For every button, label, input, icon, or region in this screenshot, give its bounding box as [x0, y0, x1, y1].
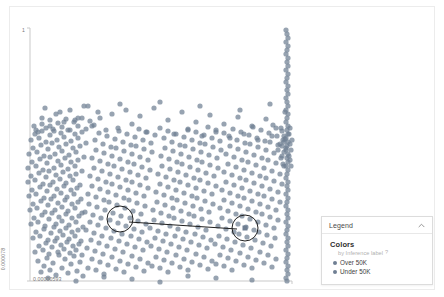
- scatter-point[interactable]: [100, 141, 105, 146]
- scatter-point[interactable]: [140, 137, 145, 142]
- scatter-point[interactable]: [233, 164, 238, 169]
- scatter-point[interactable]: [186, 211, 191, 216]
- scatter-point[interactable]: [183, 172, 188, 177]
- scatter-point[interactable]: [288, 163, 293, 168]
- scatter-point[interactable]: [55, 200, 60, 205]
- scatter-point[interactable]: [61, 134, 66, 139]
- scatter-point[interactable]: [150, 207, 155, 212]
- scatter-point[interactable]: [89, 256, 94, 261]
- scatter-point[interactable]: [54, 137, 59, 142]
- scatter-point[interactable]: [43, 174, 48, 179]
- scatter-point[interactable]: [115, 174, 120, 179]
- scatter-point[interactable]: [235, 146, 240, 151]
- scatter-point[interactable]: [269, 196, 274, 201]
- scatter-point[interactable]: [108, 144, 113, 149]
- scatter-point[interactable]: [133, 264, 138, 269]
- scatter-point[interactable]: [65, 166, 70, 171]
- scatter-point[interactable]: [212, 241, 217, 246]
- scatter-point[interactable]: [278, 155, 283, 160]
- scatter-point[interactable]: [170, 205, 175, 210]
- scatter-point[interactable]: [259, 211, 264, 216]
- scatter-point[interactable]: [137, 256, 142, 261]
- scatter-point[interactable]: [121, 269, 126, 274]
- scatter-point[interactable]: [30, 145, 35, 150]
- scatter-point[interactable]: [31, 215, 36, 220]
- scatter-point[interactable]: [147, 167, 152, 172]
- scatter-point[interactable]: [265, 252, 270, 257]
- scatter-point[interactable]: [177, 179, 182, 184]
- scatter-point[interactable]: [187, 164, 192, 169]
- scatter-point[interactable]: [240, 242, 245, 247]
- scatter-point[interactable]: [207, 112, 212, 117]
- scatter-point[interactable]: [109, 111, 114, 116]
- scatter-point[interactable]: [190, 203, 195, 208]
- scatter-point[interactable]: [65, 270, 70, 275]
- scatter-point[interactable]: [134, 200, 139, 205]
- scatter-point[interactable]: [227, 218, 232, 223]
- scatter-point[interactable]: [249, 265, 254, 270]
- scatter-point[interactable]: [204, 245, 209, 250]
- scatter-point[interactable]: [131, 226, 136, 231]
- scatter-point[interactable]: [183, 229, 188, 234]
- scatter-point[interactable]: [208, 237, 213, 242]
- scatter-point[interactable]: [105, 189, 110, 194]
- scatter-point[interactable]: [235, 193, 240, 198]
- scatter-point[interactable]: [257, 173, 262, 178]
- scatter-point[interactable]: [112, 136, 117, 141]
- scatter-point[interactable]: [205, 266, 210, 271]
- scatter-point[interactable]: [239, 157, 244, 162]
- scatter-point[interactable]: [169, 260, 174, 265]
- scatter-point[interactable]: [113, 192, 118, 197]
- scatter-point[interactable]: [89, 155, 94, 160]
- scatter-point[interactable]: [131, 161, 136, 166]
- scatter-point[interactable]: [59, 124, 64, 129]
- scatter-point[interactable]: [267, 214, 272, 219]
- scatter-point[interactable]: [174, 159, 179, 164]
- scatter-point[interactable]: [73, 278, 78, 283]
- scatter-point[interactable]: [124, 131, 129, 136]
- scatter-point[interactable]: [33, 191, 38, 196]
- scatter-point[interactable]: [237, 175, 242, 180]
- scatter-point[interactable]: [162, 202, 167, 207]
- scatter-point[interactable]: [62, 256, 67, 261]
- scatter-point[interactable]: [281, 149, 286, 154]
- scatter-point[interactable]: [220, 244, 225, 249]
- scatter-point[interactable]: [267, 186, 272, 191]
- scatter-point[interactable]: [179, 109, 184, 114]
- scatter-point[interactable]: [284, 278, 289, 283]
- scatter-point[interactable]: [30, 201, 35, 206]
- scatter-point[interactable]: [121, 195, 126, 200]
- scatter-point[interactable]: [244, 234, 249, 239]
- scatter-point[interactable]: [265, 157, 270, 162]
- scatter-point[interactable]: [243, 177, 248, 182]
- scatter-point[interactable]: [277, 141, 282, 146]
- scatter-point[interactable]: [115, 125, 120, 130]
- scatter-point[interactable]: [87, 118, 92, 123]
- scatter-point[interactable]: [185, 273, 190, 278]
- legend-header[interactable]: Legend: [322, 217, 432, 234]
- scatter-point[interactable]: [101, 274, 106, 279]
- scatter-point[interactable]: [51, 128, 56, 133]
- scatter-point[interactable]: [133, 190, 138, 195]
- scatter-point[interactable]: [113, 266, 118, 271]
- scatter-point[interactable]: [79, 252, 84, 257]
- scatter-point[interactable]: [145, 157, 150, 162]
- scatter-point[interactable]: [58, 190, 63, 195]
- scatter-point[interactable]: [225, 161, 230, 166]
- scatter-point[interactable]: [75, 157, 80, 162]
- scatter-point[interactable]: [157, 265, 162, 270]
- scatter-point[interactable]: [158, 153, 163, 158]
- scatter-point[interactable]: [269, 168, 274, 173]
- scatter-point[interactable]: [128, 233, 133, 238]
- scatter-point[interactable]: [193, 251, 198, 256]
- scatter-point[interactable]: [198, 149, 203, 154]
- scatter-point[interactable]: [263, 116, 268, 121]
- scatter-point[interactable]: [269, 133, 274, 138]
- scatter-point[interactable]: [59, 204, 64, 209]
- scatter-point[interactable]: [33, 229, 38, 234]
- scatter-point[interactable]: [157, 99, 162, 104]
- scatter-point[interactable]: [52, 207, 57, 212]
- scatter-point[interactable]: [65, 208, 70, 213]
- scatter-point[interactable]: [199, 133, 204, 138]
- scatter-point[interactable]: [227, 143, 232, 148]
